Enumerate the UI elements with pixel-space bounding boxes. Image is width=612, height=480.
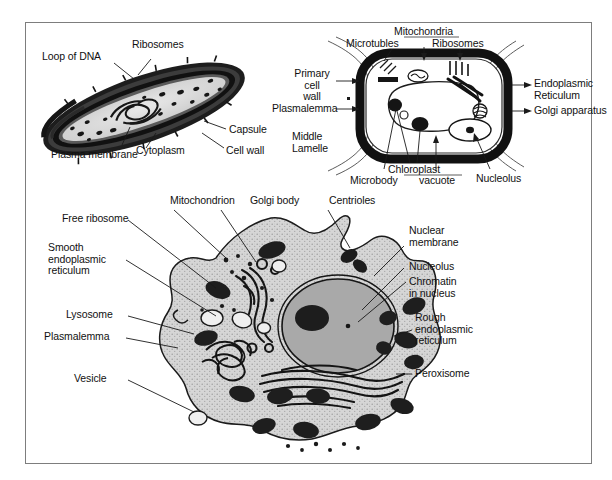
plant-label-plasmalemma: Plasmalemma: [272, 103, 337, 115]
plant-label-middle-lamelle: Middle Lamelle: [292, 131, 328, 154]
animal-label-free-ribosome: Free ribosome: [62, 213, 128, 225]
bacterial-label-cell-wall: Cell wall: [226, 145, 264, 157]
animal-label-lysosome: Lysosome: [66, 309, 113, 321]
plant-chloroplast-1: [388, 99, 402, 112]
plant-nucleolus: [466, 127, 474, 133]
bacterial-label-cytoplasm: Cytoplasm: [136, 145, 185, 157]
plant-label-vacuote: vacuote: [419, 175, 455, 187]
animal-label-nuclear-membrane: Nuclear membrane: [409, 225, 458, 248]
plant-label-microtubles: Microtubles: [346, 38, 399, 50]
figure-page: Loop of DNA Ribosomes Plasma membrane Cy…: [0, 0, 612, 480]
figure-frame: Loop of DNA Ribosomes Plasma membrane Cy…: [25, 22, 592, 464]
animal-label-smooth-er: Smooth endoplasmic reticulum: [48, 242, 106, 277]
animal-label-plasmalemma: Plasmalemma: [44, 331, 109, 343]
plant-cell-panel: Mitochondria Microtubles Ribosomes Prima…: [284, 23, 593, 188]
animal-label-peroxisome: Peroxisome: [415, 368, 469, 380]
plant-label-golgi-apparatus: Golgi apparatus: [534, 105, 607, 117]
animal-cell-panel: Mitochondrion Golgi body Centrioles Free…: [66, 198, 586, 463]
bacterial-label-plasma-membrane: Plasma membrane: [51, 149, 138, 161]
animal-label-golgi-body: Golgi body: [250, 195, 299, 207]
animal-label-mitochondrion: Mitochondrion: [170, 195, 235, 207]
bacterial-label-ribosomes: Ribosomes: [132, 39, 184, 51]
bacterial-label-capsule: Capsule: [229, 124, 267, 136]
animal-nucleolus: [295, 305, 329, 331]
animal-cell-drawing: [66, 198, 586, 463]
animal-label-centrioles: Centrioles: [329, 195, 375, 207]
animal-nucleus: [278, 275, 398, 377]
plant-label-microbody: Microbody: [350, 175, 398, 187]
animal-label-nucleolus: Nucleolus: [409, 261, 454, 273]
plant-label-mitochondria: Mitochondria: [394, 26, 453, 38]
animal-label-vesicle: Vesicle: [74, 373, 107, 385]
animal-label-rough-er: Rough endoplasmic reticulum: [415, 312, 473, 347]
bacterial-cell-panel: Loop of DNA Ribosomes Plasma membrane Cy…: [26, 23, 288, 183]
plant-nucleus: [449, 119, 491, 141]
plant-chloroplast-2: [412, 117, 429, 131]
bacterial-label-loop-of-dna: Loop of DNA: [42, 51, 101, 63]
plant-mitochondrion: [408, 70, 428, 82]
animal-chromatin-dot: [346, 324, 351, 329]
plant-label-endoplasmic-reticulum: Endoplasmic Reticulum: [534, 78, 593, 101]
plant-label-ribosomes: Ribosomes: [432, 38, 484, 50]
animal-label-chromatin: Chromatin in nucleus: [409, 276, 457, 299]
plant-label-nucleolus: Nucleolus: [476, 173, 521, 185]
plant-label-primary-cell-wall: Primary cell wall: [288, 68, 336, 103]
